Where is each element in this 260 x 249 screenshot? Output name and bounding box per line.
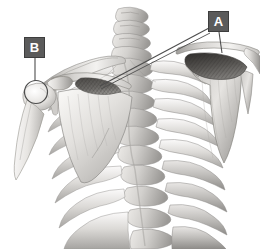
cervical-vertebrae [112, 7, 152, 64]
callout-label-b[interactable]: B [24, 37, 45, 58]
callout-label-a[interactable]: A [208, 11, 229, 32]
left-humerus [14, 83, 56, 180]
anatomy-figure: A B [0, 0, 260, 249]
